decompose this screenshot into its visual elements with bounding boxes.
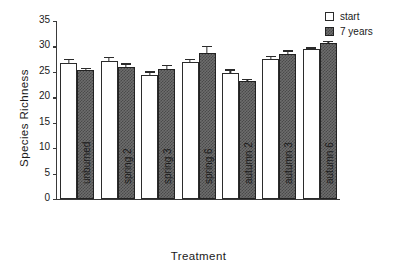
y-tick-mark xyxy=(53,199,57,200)
open-square-swatch xyxy=(325,12,334,21)
error-bar-cap xyxy=(185,59,195,60)
error-bar-cap xyxy=(306,47,316,48)
x-tick-label: autumn 6 xyxy=(324,142,335,184)
chart-legend: start7 years xyxy=(325,11,373,41)
x-tick-label: autumn 2 xyxy=(243,142,254,184)
legend-label: 7 years xyxy=(340,26,373,37)
error-bar-cap xyxy=(225,69,235,70)
legend-label: start xyxy=(340,11,359,22)
bar-series-container xyxy=(57,21,340,199)
x-tick-label: spring 2 xyxy=(122,148,133,184)
y-tick-label: 0 xyxy=(44,192,50,203)
bar-start xyxy=(141,75,158,199)
bar-slot xyxy=(141,21,158,199)
y-tick-label: 15 xyxy=(39,116,50,127)
y-tick-label: 20 xyxy=(39,90,50,101)
bar-slot xyxy=(60,21,77,199)
error-bar-cap xyxy=(162,65,172,66)
error-bar-cap xyxy=(242,79,252,80)
error-bar-cap xyxy=(266,56,276,57)
error-bar-cap xyxy=(145,71,155,72)
x-tick-label: autumn 3 xyxy=(283,142,294,184)
error-bar-cap xyxy=(121,63,131,64)
error-bar-cap xyxy=(81,68,91,69)
y-tick-label: 30 xyxy=(39,39,50,50)
error-bar-cap xyxy=(64,59,74,60)
plot-area: 05101520253035 xyxy=(57,21,340,199)
bar-start xyxy=(222,73,239,199)
bar-start xyxy=(182,62,199,199)
x-axis-title: Treatment xyxy=(57,250,340,262)
error-bar-cap xyxy=(323,41,333,42)
y-axis-title: Species Richness xyxy=(18,48,30,188)
bar-chart-figure: Species Richness 05101520253035 unburned… xyxy=(0,0,397,272)
error-bar-cap xyxy=(104,57,114,58)
bar-slot xyxy=(303,21,320,199)
bar-slot xyxy=(262,21,279,199)
legend-item: start xyxy=(325,11,373,22)
x-tick-label: unburned xyxy=(81,142,92,184)
bar-start xyxy=(303,49,320,199)
y-tick-label: 5 xyxy=(44,167,50,178)
legend-item: 7 years xyxy=(325,26,373,37)
error-bar-cap xyxy=(202,46,212,47)
bar-start xyxy=(101,61,118,199)
bar-start xyxy=(262,59,279,199)
x-tick-label: spring 3 xyxy=(162,148,173,184)
y-tick-label: 25 xyxy=(39,65,50,76)
error-bar-cap xyxy=(283,50,293,51)
bar-slot xyxy=(182,21,199,199)
bar-slot xyxy=(222,21,239,199)
x-tick-label: spring 6 xyxy=(203,148,214,184)
bar-start xyxy=(60,63,77,199)
y-tick-label: 35 xyxy=(39,14,50,25)
y-tick-label: 10 xyxy=(39,141,50,152)
bar-slot xyxy=(101,21,118,199)
filled-square-swatch xyxy=(325,27,334,36)
x-axis-line xyxy=(56,199,340,200)
